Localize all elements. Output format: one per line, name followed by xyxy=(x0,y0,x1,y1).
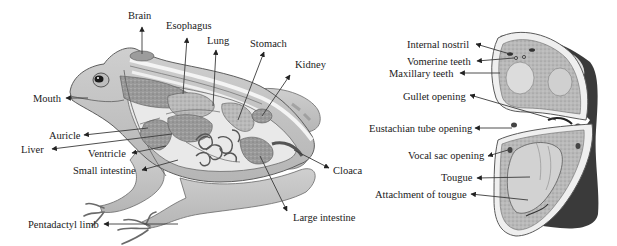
buccal-cavity-illustration xyxy=(492,32,599,236)
label-esophagus: Esophagus xyxy=(166,20,212,31)
frog-side-illustration xyxy=(70,48,320,244)
label-maxillary-teeth: Maxillary teeth xyxy=(389,68,454,79)
label-vocal-sac-opening: Vocal sac opening xyxy=(408,150,485,161)
label-pentadactyl-limb: Pentadactyl limb xyxy=(28,219,99,230)
label-tougue: Tougue xyxy=(441,172,473,183)
label-stomach: Stomach xyxy=(250,38,287,49)
label-brain: Brain xyxy=(128,10,152,21)
frog-anatomy-figure: Brain Esophagus Lung Stomach Kidney Mout… xyxy=(0,0,617,246)
label-liver: Liver xyxy=(21,144,44,155)
right-labels: Internal nostril Vomerine teeth Maxillar… xyxy=(369,39,485,200)
label-auricle: Auricle xyxy=(49,130,81,141)
eyeball-bulge-left xyxy=(506,62,534,94)
eyeball-bulge-right xyxy=(548,68,572,96)
label-large-intestine: Large intestine xyxy=(293,212,356,223)
label-attachment-of-tougue: Attachment of tougue xyxy=(375,189,467,200)
hind-foot xyxy=(118,212,156,244)
label-small-intestine: Small intestine xyxy=(73,165,136,176)
label-eustachian-tube-opening: Eustachian tube opening xyxy=(369,123,473,134)
label-vomerine-teeth: Vomerine teeth xyxy=(407,56,471,67)
label-ventricle: Ventricle xyxy=(88,148,126,159)
label-internal-nostril: Internal nostril xyxy=(407,39,469,50)
label-mouth: Mouth xyxy=(33,93,62,104)
label-gullet-opening: Gullet opening xyxy=(403,91,466,102)
label-cloaca: Cloaca xyxy=(333,165,362,176)
label-kidney: Kidney xyxy=(295,59,327,70)
label-lung: Lung xyxy=(207,35,230,46)
